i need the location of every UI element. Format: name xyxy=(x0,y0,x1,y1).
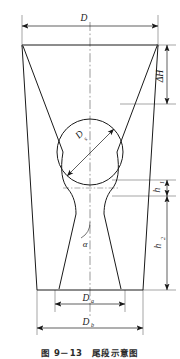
label-h1-group: h 1 xyxy=(152,181,165,192)
dimension-line-Ds xyxy=(67,129,114,176)
angle-arc-alpha xyxy=(81,222,90,238)
label-Da: D xyxy=(82,293,90,303)
label-Da-group: D a xyxy=(82,293,94,304)
label-Da-subscript: a xyxy=(91,298,94,304)
label-Ds-subscript: s xyxy=(82,135,88,141)
label-h2-group: h 2 xyxy=(153,237,166,248)
label-Db-subscript: b xyxy=(91,322,94,328)
inner-funnel-left xyxy=(23,46,76,289)
label-Db-group: D b xyxy=(82,317,94,328)
label-h2: h xyxy=(153,243,163,248)
figure-container: D ΔH D s h 1 h 2 α D a xyxy=(0,0,180,359)
label-Ds-group: D s xyxy=(73,128,89,141)
tail-section-diagram: D ΔH D s h 1 h 2 α D a xyxy=(0,0,180,359)
label-deltaH: ΔH xyxy=(155,69,165,84)
label-D: D xyxy=(80,13,88,23)
label-h1: h xyxy=(152,187,162,192)
label-h2-subscript: 2 xyxy=(160,237,166,240)
label-alpha: α xyxy=(83,239,88,249)
extension-lines xyxy=(22,15,176,335)
label-Db: D xyxy=(82,317,90,327)
inner-funnel-right xyxy=(104,46,157,289)
figure-caption: 图 9－13 尾段示意图 xyxy=(0,346,180,358)
label-h1-subscript: 1 xyxy=(159,181,165,184)
